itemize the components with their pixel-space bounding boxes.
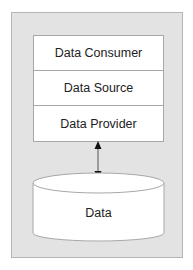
data-store-label: Data — [33, 206, 164, 220]
diagram-graphics — [0, 0, 193, 270]
